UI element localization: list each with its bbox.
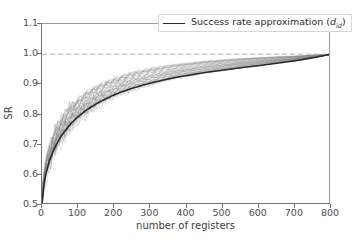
empirical-run-line [42, 54, 330, 202]
y-tick-label: 0.8 [23, 109, 38, 119]
empirical-run-line [42, 55, 330, 204]
empirical-run-line [42, 54, 330, 203]
chart-canvas [42, 24, 330, 204]
x-axis-label: number of registers [41, 221, 330, 231]
legend-label-prefix: Success rate approximation ( [191, 16, 330, 27]
plot-area [41, 23, 330, 204]
empirical-runs-band [42, 54, 330, 204]
y-tick-label: 0.6 [23, 169, 38, 179]
x-tick-label: 700 [285, 208, 303, 218]
y-tick-label: 1.0 [23, 48, 38, 58]
approximation-curve [42, 54, 330, 204]
empirical-run-line [42, 54, 330, 203]
y-tick-label: 1.1 [23, 18, 38, 28]
empirical-run-line [42, 54, 330, 203]
x-tick-label: 400 [176, 208, 194, 218]
x-tick-label: 600 [249, 208, 267, 218]
empirical-run-line [42, 55, 330, 203]
empirical-run-line [42, 54, 330, 202]
x-tick-label: 100 [68, 208, 86, 218]
legend-label-suffix: ) [342, 16, 346, 27]
empirical-run-line [42, 54, 330, 203]
empirical-run-line [42, 55, 330, 204]
y-tick-label: 0.9 [23, 79, 38, 89]
legend[interactable]: Success rate approximation (did) [158, 14, 352, 32]
empirical-run-line [42, 55, 330, 204]
empirical-run-line [42, 54, 330, 202]
x-tick-label: 500 [213, 208, 231, 218]
empirical-run-line [42, 55, 330, 204]
legend-entry-label: Success rate approximation (did) [191, 17, 346, 29]
x-tick-label: 0 [38, 208, 44, 218]
empirical-run-line [42, 54, 330, 202]
y-tick-label: 0.5 [23, 199, 38, 209]
empirical-run-line [42, 54, 330, 204]
y-tick-label: 0.7 [23, 139, 38, 149]
empirical-run-line [42, 55, 330, 204]
y-axis-label: SR [4, 106, 14, 119]
empirical-run-line [42, 54, 330, 204]
x-tick-label: 300 [140, 208, 158, 218]
x-tick-label: 200 [104, 208, 122, 218]
legend-line-swatch [163, 23, 185, 24]
empirical-run-line [42, 55, 330, 204]
empirical-run-line [42, 55, 330, 204]
empirical-run-line [42, 54, 330, 202]
empirical-run-line [42, 54, 330, 203]
empirical-run-line [42, 54, 330, 202]
x-tick-label: 800 [321, 208, 339, 218]
empirical-run-line [42, 54, 330, 202]
